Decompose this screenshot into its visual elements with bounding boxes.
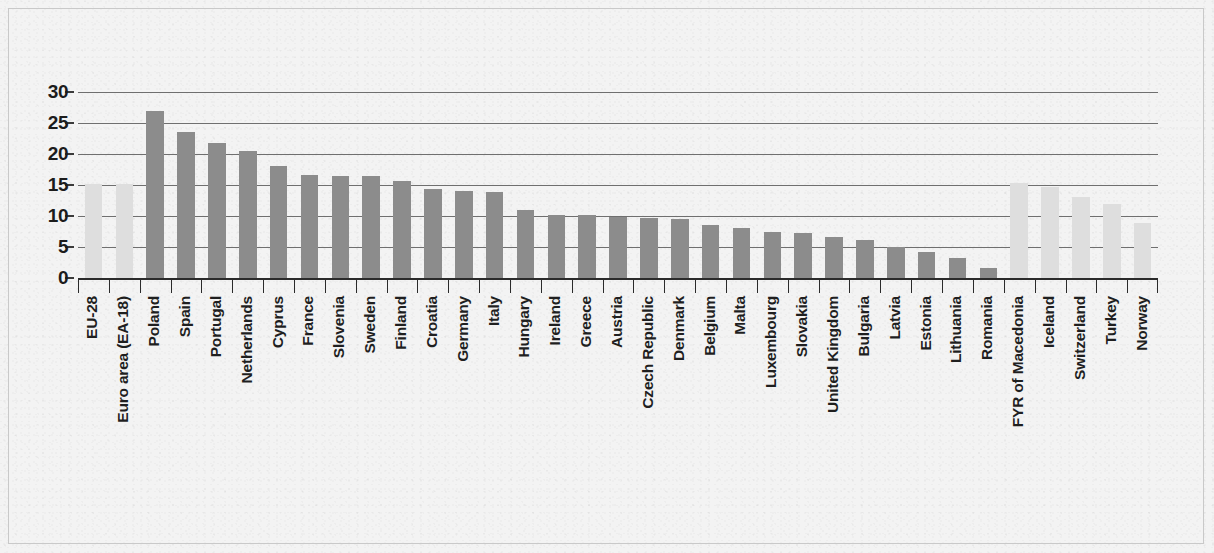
bar bbox=[671, 219, 689, 278]
bar bbox=[517, 210, 535, 278]
x-axis-tick bbox=[664, 280, 695, 294]
x-axis-label-cell: Greece bbox=[572, 296, 603, 486]
x-axis-label: Romania bbox=[979, 296, 997, 360]
x-axis-label: Lithuania bbox=[948, 296, 966, 363]
x-axis-label: Sweden bbox=[362, 296, 380, 353]
x-axis-label: Italy bbox=[485, 296, 503, 326]
bar bbox=[177, 132, 195, 278]
x-axis-label-cell: Luxembourg bbox=[757, 296, 788, 486]
bar bbox=[85, 184, 103, 278]
x-axis-tick bbox=[1127, 280, 1158, 294]
x-axis-label-cell: Finland bbox=[387, 296, 418, 486]
x-axis-label-cell: Poland bbox=[140, 296, 171, 486]
x-axis-tick bbox=[448, 280, 479, 294]
bar-slot bbox=[973, 92, 1004, 278]
bar-slot bbox=[541, 92, 572, 278]
x-axis-tick bbox=[232, 280, 263, 294]
x-axis-tick bbox=[510, 280, 541, 294]
bar-slot bbox=[911, 92, 942, 278]
x-axis-label: Euro area (EA-18) bbox=[115, 296, 133, 423]
x-axis-tick bbox=[849, 280, 880, 294]
x-axis-label-cell: Germany bbox=[448, 296, 479, 486]
x-axis-label-cell: Spain bbox=[171, 296, 202, 486]
bar bbox=[1010, 183, 1028, 278]
bar bbox=[1103, 204, 1121, 278]
x-axis-label: Croatia bbox=[423, 296, 441, 348]
bar bbox=[856, 240, 874, 278]
y-axis-tick-label: 20 bbox=[22, 144, 68, 163]
x-axis-label: United Kingdom bbox=[824, 296, 842, 413]
x-axis-tick bbox=[140, 280, 171, 294]
x-axis-tick bbox=[171, 280, 202, 294]
x-axis-label: FYR of Macedonia bbox=[1010, 296, 1028, 427]
x-axis-tick bbox=[356, 280, 387, 294]
bar-slot bbox=[572, 92, 603, 278]
x-axis-label-cell: Iceland bbox=[1035, 296, 1066, 486]
x-axis-label-cell: Euro area (EA-18) bbox=[109, 296, 140, 486]
x-axis-label: Portugal bbox=[207, 296, 225, 357]
bar-slot bbox=[633, 92, 664, 278]
x-axis-tick bbox=[479, 280, 510, 294]
y-axis-tick-label: 30 bbox=[22, 82, 68, 101]
x-axis-tick bbox=[973, 280, 1004, 294]
bar bbox=[980, 268, 998, 278]
y-axis-tick-label: 10 bbox=[22, 206, 68, 225]
x-axis-label-cell: Belgium bbox=[695, 296, 726, 486]
x-axis-tick bbox=[1035, 280, 1066, 294]
x-axis-label-cell: FYR of Macedonia bbox=[1004, 296, 1035, 486]
bar bbox=[578, 215, 596, 278]
y-axis-tick-label: 25 bbox=[22, 113, 68, 132]
bar-slot bbox=[171, 92, 202, 278]
chart-figure: 051015202530 EU-28Euro area (EA-18)Polan… bbox=[0, 0, 1214, 553]
bar-slot bbox=[201, 92, 232, 278]
bar bbox=[116, 184, 134, 278]
x-axis-label: Denmark bbox=[670, 296, 688, 361]
x-axis-label: Spain bbox=[176, 296, 194, 337]
bar bbox=[825, 237, 843, 278]
bar-slot bbox=[819, 92, 850, 278]
bar bbox=[393, 181, 411, 278]
x-axis-category-labels: EU-28Euro area (EA-18)PolandSpainPortuga… bbox=[78, 296, 1158, 486]
bar-slot bbox=[1004, 92, 1035, 278]
bar-slot bbox=[479, 92, 510, 278]
x-axis-label-cell: France bbox=[294, 296, 325, 486]
x-axis-label: Latvia bbox=[886, 296, 904, 340]
x-axis-label-cell: Italy bbox=[479, 296, 510, 486]
bar-slot bbox=[1035, 92, 1066, 278]
bar-slot bbox=[263, 92, 294, 278]
y-axis-tick-label: 15 bbox=[22, 175, 68, 194]
x-axis-label-cell: Estonia bbox=[911, 296, 942, 486]
x-axis-label-cell: United Kingdom bbox=[819, 296, 850, 486]
bar bbox=[455, 191, 473, 278]
bar-slot bbox=[1127, 92, 1158, 278]
bar bbox=[424, 189, 442, 278]
bar bbox=[794, 233, 812, 278]
x-axis-label: Slovenia bbox=[331, 296, 349, 358]
x-axis-tick bbox=[695, 280, 726, 294]
x-axis-tick bbox=[572, 280, 603, 294]
bar-slot bbox=[788, 92, 819, 278]
x-axis-tick bbox=[109, 280, 140, 294]
x-axis-tick bbox=[417, 280, 448, 294]
bar bbox=[548, 215, 566, 278]
x-axis-label: Norway bbox=[1133, 296, 1151, 351]
bar bbox=[332, 176, 350, 278]
bar bbox=[733, 228, 751, 278]
x-axis-tick bbox=[1004, 280, 1035, 294]
bar bbox=[918, 252, 936, 278]
bar bbox=[609, 217, 627, 278]
bar bbox=[146, 111, 164, 278]
x-axis-label: Slovakia bbox=[794, 296, 812, 357]
bar-slot bbox=[849, 92, 880, 278]
x-axis-label: Finland bbox=[392, 296, 410, 350]
bar-slot bbox=[880, 92, 911, 278]
x-axis-label: Belgium bbox=[701, 296, 719, 356]
x-axis-tick bbox=[325, 280, 356, 294]
x-axis-label-cell: Latvia bbox=[880, 296, 911, 486]
bar bbox=[239, 151, 257, 278]
x-axis-label: Switzerland bbox=[1071, 296, 1089, 380]
x-axis-label-cell: EU-28 bbox=[78, 296, 109, 486]
x-axis-tick bbox=[911, 280, 942, 294]
bar bbox=[208, 143, 226, 278]
bar bbox=[702, 225, 720, 278]
